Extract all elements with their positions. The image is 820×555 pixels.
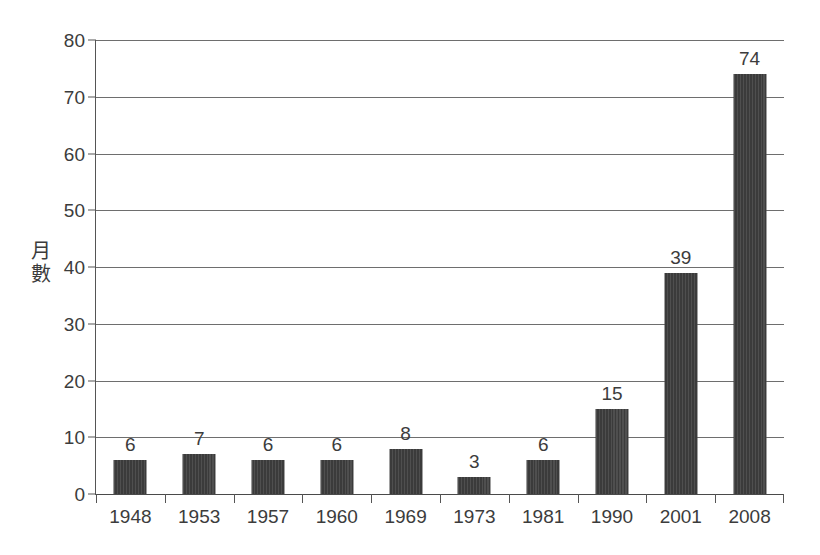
x-tick-mark-4 [371,494,372,503]
y-tick-mark-10 [88,437,96,438]
y-axis-title-char-2: 數 [28,263,54,286]
x-tick-label-1990: 1990 [591,507,633,526]
y-tick-mark-0 [88,494,96,495]
bar-group: 39 [646,40,715,494]
y-tick-label-40: 40 [64,258,85,277]
bar-value-label-1981: 6 [538,435,549,454]
bar-2001 [664,273,697,494]
y-tick-mark-60 [88,153,96,154]
y-axis-title-char-1: 月 [28,240,54,263]
bar-group: 3 [440,40,509,494]
x-tick-mark-2 [234,494,235,503]
bar-value-label-2008: 74 [739,49,760,68]
y-tick-label-60: 60 [64,144,85,163]
bar-2008 [733,74,766,494]
y-tick-label-20: 20 [64,371,85,390]
x-tick-label-1953: 1953 [178,507,220,526]
bars: 6766836153974 [96,40,784,494]
x-tick-mark-1 [165,494,166,503]
x-tick-label-1948: 1948 [109,507,151,526]
x-tick-mark-9 [715,494,716,503]
bar-group: 6 [234,40,303,494]
y-tick-label-70: 70 [64,87,85,106]
plot-area: 01020304050607080 6766836153974 19481953… [96,40,784,494]
bar-1957 [251,460,284,494]
bar-value-label-1969: 8 [400,424,411,443]
x-tick-mark-6 [509,494,510,503]
y-tick-mark-40 [88,267,96,268]
y-tick-mark-30 [88,323,96,324]
bar-value-label-1957: 6 [263,435,274,454]
y-tick-label-0: 0 [74,485,85,504]
bar-group: 6 [96,40,165,494]
bar-group: 8 [371,40,440,494]
x-tick-label-1973: 1973 [453,507,495,526]
y-tick-label-10: 10 [64,428,85,447]
bar-chart: 月 數 01020304050607080 6766836153974 1948… [0,0,820,555]
y-tick-mark-80 [88,40,96,41]
bar-value-label-2001: 39 [670,248,691,267]
x-tick-label-2001: 2001 [660,507,702,526]
y-tick-label-80: 80 [64,31,85,50]
x-tick-mark-8 [646,494,647,503]
x-tick-mark-3 [302,494,303,503]
bar-1981 [527,460,560,494]
bar-group: 7 [165,40,234,494]
bar-group: 15 [578,40,647,494]
bar-group: 6 [509,40,578,494]
x-tick-mark-5 [440,494,441,503]
bar-1969 [389,449,422,494]
bar-1953 [183,454,216,494]
bar-value-label-1960: 6 [331,435,342,454]
x-tick-label-1957: 1957 [247,507,289,526]
x-tick-label-1969: 1969 [384,507,426,526]
bar-group: 6 [302,40,371,494]
bar-value-label-1973: 3 [469,452,480,471]
bar-1960 [320,460,353,494]
y-axis-title: 月 數 [28,240,54,286]
x-tick-label-2008: 2008 [728,507,770,526]
x-tick-label-1960: 1960 [316,507,358,526]
bar-value-label-1953: 7 [194,429,205,448]
y-tick-mark-70 [88,96,96,97]
x-tick-mark-0 [96,494,97,503]
bar-group: 74 [715,40,784,494]
x-tick-mark-7 [578,494,579,503]
x-tick-label-1981: 1981 [522,507,564,526]
y-tick-mark-20 [88,380,96,381]
y-tick-label-30: 30 [64,314,85,333]
y-tick-mark-50 [88,210,96,211]
y-tick-label-50: 50 [64,201,85,220]
x-tick-mark-10 [783,494,784,503]
bar-1990 [595,409,628,494]
bar-value-label-1948: 6 [125,435,136,454]
bar-1948 [114,460,147,494]
bar-value-label-1990: 15 [601,384,622,403]
bar-1973 [458,477,491,494]
